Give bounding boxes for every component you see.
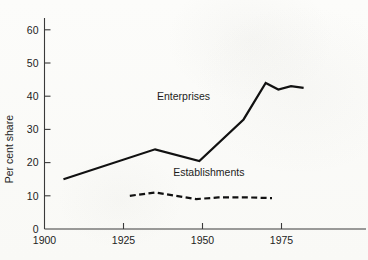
x-axis-tick-label: 1925 [112, 234, 136, 246]
y-axis-tick-label: 0 [33, 223, 39, 235]
chart-container: 0102030405060 1900192519501975 Enterpris… [0, 0, 368, 260]
y-axis-tick-label: 30 [27, 123, 39, 135]
y-axis-title: Per cent share [3, 115, 15, 183]
series-label-enterprises: Enterprises [157, 90, 210, 102]
y-axis-tick-label: 20 [27, 156, 39, 168]
x-axis-tick-label: 1975 [270, 234, 294, 246]
x-axis-tick-label: 1950 [191, 234, 215, 246]
y-axis-tick-label: 40 [27, 90, 39, 102]
series-annotations: EnterprisesEstablishments [157, 90, 244, 178]
x-axis-tick-label: 1900 [33, 234, 57, 246]
series-line-establishments [130, 192, 272, 199]
series-label-establishments: Establishments [173, 166, 244, 178]
y-axis-tick-label: 50 [27, 57, 39, 69]
line-chart: 0102030405060 1900192519501975 Enterpris… [0, 0, 368, 260]
x-axis: 1900192519501975 [33, 223, 366, 246]
y-axis: 0102030405060 [27, 18, 51, 235]
y-axis-tick-label: 60 [27, 24, 39, 36]
axis-titles: Per cent share [3, 115, 15, 183]
y-axis-tick-label: 10 [27, 190, 39, 202]
